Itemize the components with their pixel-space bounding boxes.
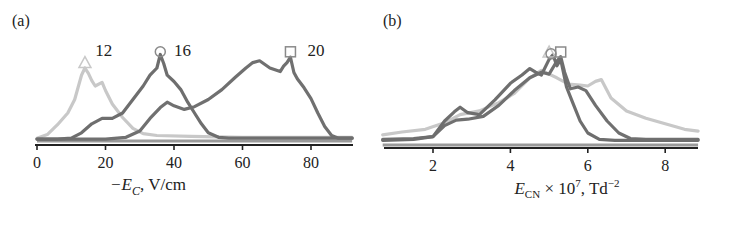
- x-tick-label: 4: [506, 157, 514, 174]
- series-line-12: [383, 70, 698, 134]
- panel-label-a: (a): [12, 12, 30, 30]
- x-axis-title-a-prefix: −E: [110, 175, 132, 194]
- series-label-20: 20: [308, 41, 325, 60]
- x-axis-title-b-prefix: E: [513, 179, 525, 198]
- x-axis-title-b-middle: × 10: [540, 179, 575, 198]
- marker-triangle-12: [79, 57, 91, 68]
- panel-a: (a) 121620 020406080 −EC, V/cm: [12, 12, 353, 198]
- x-axis-title-b-superscript2: −2: [608, 177, 620, 189]
- curves-a: 121620: [37, 41, 352, 141]
- curves-b: [383, 46, 698, 145]
- series-line-12: [37, 68, 352, 138]
- x-tick-label: 0: [33, 154, 41, 171]
- x-tick-label: 8: [661, 157, 669, 174]
- series-label-12: 12: [95, 41, 112, 60]
- panel-label-b: (b): [383, 12, 402, 30]
- figure: (a) 121620 020406080 −EC, V/cm (b) 2468 …: [0, 0, 730, 232]
- x-axis-title-b-subscript: CN: [525, 188, 540, 200]
- ticks-b: 2468: [429, 148, 669, 174]
- x-tick-label: 6: [584, 157, 592, 174]
- x-tick-label: 60: [235, 154, 251, 171]
- x-axis-title-b-suffix: , Td: [581, 179, 609, 198]
- x-tick-label: 40: [166, 154, 182, 171]
- panel-b: (b) 2468 ECN × 107, Td−2: [383, 12, 698, 200]
- x-axis-title-b: ECN × 107, Td−2: [513, 177, 619, 200]
- ticks-a: 020406080: [33, 145, 319, 171]
- x-tick-label: 80: [303, 154, 319, 171]
- series-label-16: 16: [174, 41, 191, 60]
- x-axis-title-a-suffix: , V/cm: [140, 175, 186, 194]
- marker-square-20: [285, 47, 295, 57]
- x-tick-label: 2: [429, 157, 437, 174]
- x-axis-title-a: −EC, V/cm: [110, 175, 186, 198]
- x-tick-label: 20: [98, 154, 114, 171]
